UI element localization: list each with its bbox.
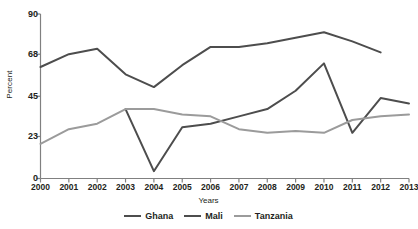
y-axis-title: Percent (5, 55, 14, 115)
x-tick-label: 2000 (31, 182, 50, 192)
x-tick-label: 2003 (116, 182, 135, 192)
x-tick-label: 2002 (88, 182, 107, 192)
legend-label: Ghana (145, 211, 173, 221)
y-tick-label: 68 (16, 50, 38, 59)
x-tick-label: 2011 (343, 182, 361, 192)
x-tick-label: 2006 (201, 182, 220, 192)
y-tick-label: 23 (16, 132, 38, 141)
x-tick-label: 2013 (400, 182, 418, 192)
legend-swatch-tanzania (234, 215, 251, 217)
chart-legend: GhanaMaliTanzania (0, 211, 417, 221)
legend-item-mali[interactable]: Mali (184, 211, 223, 221)
x-tick-label: 2012 (371, 182, 390, 192)
x-tick-label: 2005 (173, 182, 192, 192)
legend-swatch-mali (184, 215, 201, 217)
legend-item-ghana[interactable]: Ghana (124, 211, 173, 221)
y-tick-label: 90 (16, 10, 38, 19)
x-axis-title: Years (0, 196, 417, 205)
x-tick-label: 2010 (314, 182, 333, 192)
x-tick-label: 2007 (229, 182, 248, 192)
legend-label: Mali (205, 211, 223, 221)
legend-label: Tanzania (255, 211, 293, 221)
x-tick-labels: 2000200120022003200420052006200720082009… (0, 182, 417, 196)
x-tick-label: 2009 (286, 182, 305, 192)
series-line-tanzania (41, 109, 410, 144)
y-tick-label: 45 (16, 92, 38, 101)
x-tick-label: 2004 (144, 182, 163, 192)
series-lines (41, 32, 410, 171)
legend-item-tanzania[interactable]: Tanzania (234, 211, 293, 221)
legend-swatch-ghana (124, 215, 141, 217)
x-tick-label: 2008 (258, 182, 277, 192)
x-tick-label: 2001 (59, 182, 78, 192)
